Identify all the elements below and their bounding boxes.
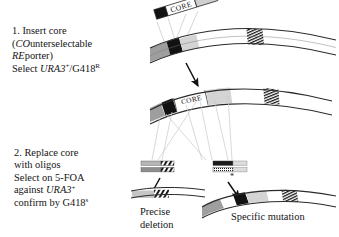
oligo-pair-right: * [213,161,247,181]
top-chromosome [144,21,336,72]
step1-line3: REporter) [11,50,53,62]
step1-line2: (COunterselectable [12,38,93,50]
step1-text-group: 1. Insert core (COunterselectable REport… [11,25,100,74]
mid-hatched-marker [263,83,280,110]
step1-line4: Select URA3+/G418R [12,62,100,74]
donor-core-label: CORE [169,0,193,14]
oligo-left-top-body [141,161,161,165]
caption-specific-mutation: Specific mutation [231,211,305,222]
donor-grey-flank-right [194,0,218,7]
step2-line5: confirm by G418s [14,196,89,208]
oligo-right-top-body [213,161,233,165]
oligo-left-top-hatch [161,161,174,165]
mutation-lightgrey-right [245,184,271,214]
middle-chromosome: CORE [142,83,332,130]
oligo-left-bottom-body [141,168,161,172]
product-precise-deletion [131,187,205,198]
arrow-step1-to-step2 [186,63,198,86]
top-hatched-marker [246,21,265,49]
caption-precise-line1: Precise [140,206,170,217]
step1-line1: 1. Insert core [12,25,67,36]
oligo-right-top-tail [233,161,247,165]
caption-precise-deletion: Precise deletion [140,206,174,230]
step2-line3: Select on 5-FOA [14,172,85,183]
step2-line1: 2. Replace core [14,147,79,158]
donor-cassette: CORE [154,0,218,19]
core-cassette-diagram: 1. Insert core (COunterselectable REport… [0,0,339,237]
step2-line2: with oligos [14,159,60,170]
mutation-asterisk-marker: * [230,172,234,181]
oligo-left-bottom-hatch [161,168,174,172]
step2-line4: against URA3+ [14,184,75,196]
caption-precise-line2: deletion [140,219,174,230]
deletion-hatched-junction [154,190,169,198]
oligo-pair-left [141,161,174,172]
oligo-right-bottom-tail [233,168,247,172]
step2-text-group: 2. Replace core with oligos Select on 5-… [14,147,89,208]
